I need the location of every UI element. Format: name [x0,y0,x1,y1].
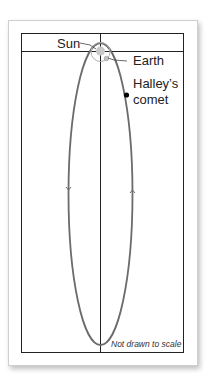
comet-label-line1: Halley’s [133,76,178,91]
comet-icon [124,92,129,97]
orbit-diagram [0,0,208,389]
sun-label: Sun [57,36,80,51]
sun-icon [96,47,105,56]
comet-label-line2: comet [133,92,168,107]
scale-note: Not drawn to scale [111,339,181,349]
earth-icon [104,56,109,61]
earth-leader-line [108,58,127,61]
earth-label: Earth [133,53,164,68]
